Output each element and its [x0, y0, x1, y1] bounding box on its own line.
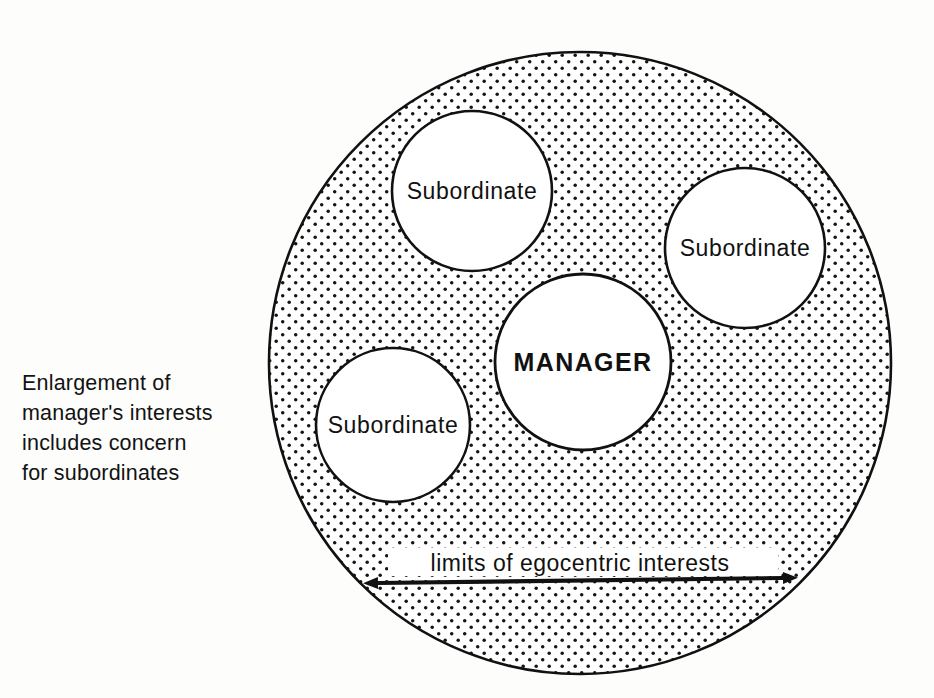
subordinate-right-label: Subordinate [680, 235, 811, 261]
node-manager[interactable]: MANAGER [495, 274, 671, 450]
subordinate-top-label: Subordinate [407, 178, 538, 204]
diagram-svg: Subordinate Subordinate Subordinate MANA… [0, 0, 934, 698]
figure-caption: Enlargement of manager's interests inclu… [22, 368, 272, 488]
node-subordinate-top[interactable]: Subordinate [392, 111, 552, 271]
caption-line-4: for subordinates [22, 458, 272, 488]
manager-label: MANAGER [514, 348, 653, 376]
caption-line-2: manager's interests [22, 398, 272, 428]
egocentric-limits-label: limits of egocentric interests [431, 550, 730, 576]
caption-line-3: includes concern [22, 428, 272, 458]
subordinate-left-label: Subordinate [328, 412, 459, 438]
figure-canvas: Subordinate Subordinate Subordinate MANA… [0, 0, 934, 698]
caption-line-1: Enlargement of [22, 368, 272, 398]
node-subordinate-left[interactable]: Subordinate [316, 348, 470, 502]
egocentric-interests-region [0, 0, 934, 698]
node-subordinate-right[interactable]: Subordinate [665, 168, 825, 328]
